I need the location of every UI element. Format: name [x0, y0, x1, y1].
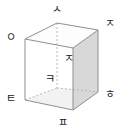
vertex-label-top-right-back: ㅈ — [103, 18, 117, 29]
vertex-label-top-left-front: ㅇ — [4, 32, 18, 43]
vertex-label-bottom-left-front: ㅌ — [4, 93, 18, 104]
vertex-label-top-back: ㅅ — [50, 4, 64, 15]
cuboid-drawing — [0, 0, 120, 133]
vertex-label-bottom-right-front: ㅍ — [56, 117, 70, 128]
geometry-figure: ㅅ ㅇ ㅈ ㅈ ㅋ ㅌ ㅎ ㅍ — [0, 0, 120, 133]
vertex-label-bottom-right-back: ㅎ — [103, 89, 117, 100]
vertex-label-bottom-back-hidden: ㅋ — [43, 74, 57, 85]
vertex-label-top-right-front: ㅈ — [62, 53, 76, 64]
